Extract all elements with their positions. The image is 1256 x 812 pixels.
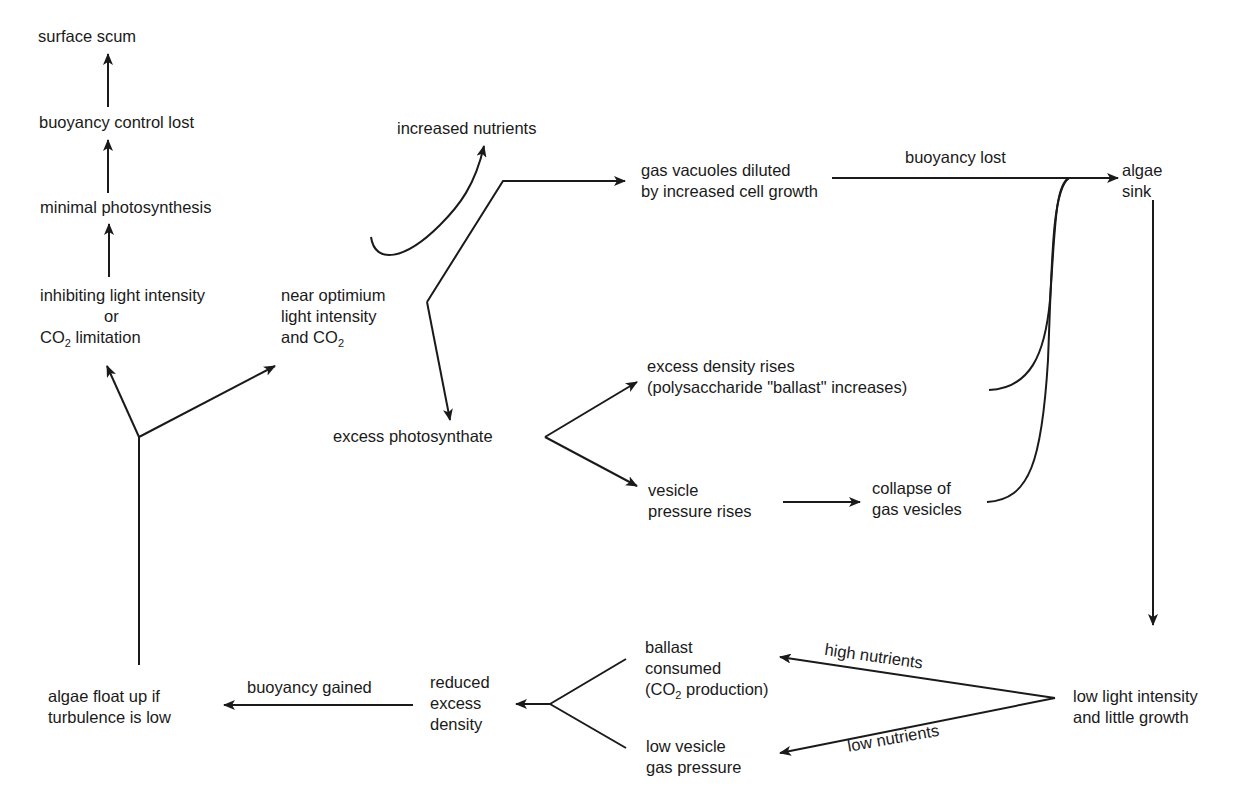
node-text: inhibiting light intensity [40,285,205,306]
node-text: increased nutrients [397,118,536,139]
node-collapse-gas-vesicles: collapse of gas vesicles [872,478,962,520]
node-low-vesicle-gas-pressure: low vesicle gas pressure [646,736,741,778]
node-text: turbulence is low [48,707,171,728]
node-text: gas vesicles [872,499,962,520]
node-excess-photosynthate: excess photosynthate [333,426,493,447]
node-text: sink [1122,181,1162,202]
node-text: and CO2 [281,327,386,348]
node-text: low light intensity [1073,686,1198,707]
node-text: algae float up if [48,686,171,707]
node-text: (polysaccharide "ballast" increases) [647,377,907,398]
node-text: gas vacuoles diluted [641,160,818,181]
node-algae-sink: algae sink [1122,160,1162,202]
node-gas-vacuoles-diluted: gas vacuoles diluted by increased cell g… [641,160,818,202]
node-text: density [430,714,490,735]
node-text: excess photosynthate [333,426,493,447]
node-low-light-little-growth: low light intensity and little growth [1073,686,1198,728]
node-text: minimal photosynthesis [40,197,212,218]
node-minimal-photosynthesis: minimal photosynthesis [40,197,212,218]
edge-label-buoyancy-gained: buoyancy gained [247,678,372,697]
node-text: reduced [430,672,490,693]
node-buoyancy-control-lost: buoyancy control lost [39,112,194,133]
node-text: buoyancy control lost [39,112,194,133]
node-text: by increased cell growth [641,181,818,202]
node-near-optimum: near optimium light intensity and CO2 [281,285,386,348]
node-text: low vesicle [646,736,741,757]
node-vesicle-pressure-rises: vesicle pressure rises [648,480,752,522]
node-text: pressure rises [648,501,752,522]
node-text: vesicle [648,480,752,501]
node-text: excess [430,693,490,714]
node-text: or [40,306,205,327]
node-increased-nutrients: increased nutrients [397,118,536,139]
node-surface-scum: surface scum [38,26,136,47]
node-text: excess density rises [647,356,907,377]
node-text: (CO2 production) [645,679,769,700]
node-excess-density-rises: excess density rises (polysaccharide "ba… [647,356,907,398]
node-text: collapse of [872,478,962,499]
node-reduced-excess-density: reduced excess density [430,672,490,735]
node-text: algae [1122,160,1162,181]
node-text: gas pressure [646,757,741,778]
node-text: ballast [645,637,769,658]
node-inhibiting-light: inhibiting light intensity or CO2 limita… [40,285,205,348]
node-text: consumed [645,658,769,679]
node-ballast-consumed: ballast consumed (CO2 production) [645,637,769,700]
node-text: surface scum [38,26,136,47]
node-text: near optimium [281,285,386,306]
node-text: CO2 limitation [40,327,205,348]
node-algae-float-up: algae float up if turbulence is low [48,686,171,728]
edge-label-buoyancy-lost: buoyancy lost [905,148,1006,167]
node-text: and little growth [1073,707,1198,728]
node-text: light intensity [281,306,386,327]
